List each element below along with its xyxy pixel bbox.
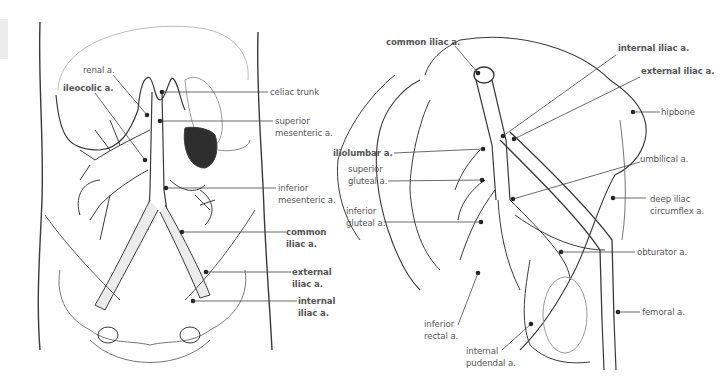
label-hipbone: hipbone xyxy=(661,106,695,118)
label-obturator-artery: obturator a. xyxy=(637,246,687,258)
label-external-iliac-artery-left: externaliliac a. xyxy=(292,266,332,290)
label-superior-mesenteric-artery: superiormesenteric a. xyxy=(275,115,333,139)
label-inferior-mesenteric-artery: inferiormesenteric a. xyxy=(278,182,336,206)
right-diagram-drawing xyxy=(337,37,646,370)
label-internal-iliac-artery-right: internal iliac a. xyxy=(618,42,689,54)
label-internal-pudendal-artery: internalpudendal a. xyxy=(466,345,516,369)
right-diagram-points xyxy=(476,71,636,327)
label-inferior-gluteal-artery: inferiorgluteal a. xyxy=(346,205,385,229)
label-femoral-artery: femoral a. xyxy=(642,306,685,318)
label-external-iliac-artery-right: external iliac a. xyxy=(641,65,715,77)
label-umbilical-artery: umbilical a. xyxy=(640,153,688,165)
anatomy-figure: renal a. ileocolic a. celiac trunk super… xyxy=(0,0,724,391)
left-diagram-drawing xyxy=(38,22,272,363)
label-iliolumbar-artery: iliolumbar a. xyxy=(333,147,393,159)
right-leader-lines xyxy=(384,46,660,350)
label-internal-iliac-artery-left: internaliliac a. xyxy=(298,295,335,319)
label-renal-artery: renal a. xyxy=(83,64,115,76)
label-deep-iliac-circumflex-artery: deep iliaccircumflex a. xyxy=(650,193,704,217)
illustration-svg xyxy=(0,0,724,391)
label-superior-gluteal-artery: superiorgluteal a. xyxy=(348,163,387,187)
label-common-iliac-artery-right: common iliac a. xyxy=(386,36,460,48)
label-celiac-trunk: celiac trunk xyxy=(270,86,319,98)
label-common-iliac-artery-left: commoniliac a. xyxy=(286,226,326,250)
label-inferior-rectal-artery: inferiorrectal a. xyxy=(424,318,458,342)
label-ileocolic-artery: ileocolic a. xyxy=(63,82,113,94)
